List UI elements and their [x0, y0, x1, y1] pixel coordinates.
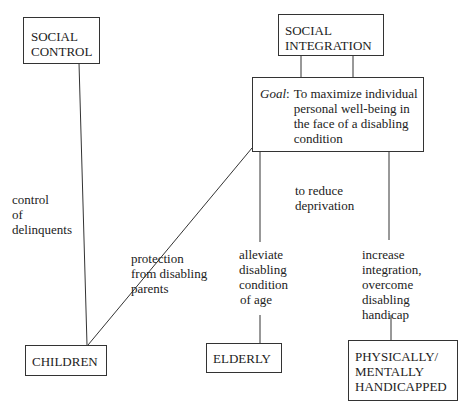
node-line: HANDICAPPED	[355, 379, 457, 394]
label-line: protection	[131, 251, 207, 266]
social-control-node: SOCIAL CONTROL	[23, 17, 100, 64]
label-line: disabling	[362, 292, 422, 307]
social-integration-node: SOCIAL INTEGRATION	[278, 14, 384, 56]
goal-text: To maximize individual personal well-bei…	[294, 86, 418, 146]
label-line: increase	[362, 247, 422, 262]
label-line: to reduce	[295, 183, 354, 198]
goal-line: personal well-being in	[294, 101, 418, 116]
label-line: overcome	[362, 277, 422, 292]
increase-integration-label: increase integration, overcome disabling…	[362, 247, 422, 322]
control-delinquents-label: control of delinquents	[12, 192, 72, 237]
protection-label: protection from disabling parents	[131, 251, 207, 296]
goal-node: Goal: To maximize individual personal we…	[252, 77, 424, 152]
label-line: disabling	[239, 262, 288, 277]
goal-line: To maximize individual	[294, 86, 418, 101]
children-node: CHILDREN	[25, 345, 107, 376]
node-line: PHYSICALLY/	[355, 349, 457, 364]
node-line: SOCIAL	[31, 29, 99, 44]
edge-social-control-children	[79, 63, 87, 345]
label-line: alleviate	[239, 247, 288, 262]
alleviate-label: alleviate disabling condition of age	[239, 247, 288, 307]
label-line: delinquents	[12, 222, 72, 237]
goal-line: the face of a disabling	[294, 116, 418, 131]
label-line: parents	[131, 281, 207, 296]
label-line: integration,	[362, 262, 422, 277]
goal-separator: :	[286, 86, 290, 146]
goal-line: condition	[294, 131, 418, 146]
goal-key: Goal	[260, 86, 286, 146]
reduce-deprivation-label: to reduce deprivation	[295, 183, 354, 213]
label-line: control	[12, 192, 72, 207]
label-line: deprivation	[295, 198, 354, 213]
label-line: from disabling	[131, 266, 207, 281]
label-line: condition	[239, 277, 288, 292]
label-line: of age	[239, 292, 288, 307]
edge-goal-children	[88, 148, 252, 345]
node-line: SOCIAL	[285, 23, 383, 38]
node-line: ELDERLY	[213, 351, 281, 366]
node-line: MENTALLY	[355, 364, 457, 379]
elderly-node: ELDERLY	[206, 343, 282, 373]
label-line: of	[12, 207, 72, 222]
node-line: CONTROL	[31, 44, 99, 59]
node-line: CHILDREN	[32, 354, 106, 369]
handicapped-node: PHYSICALLY/ MENTALLY HANDICAPPED	[348, 340, 458, 401]
label-line: handicap	[362, 307, 422, 322]
node-line: INTEGRATION	[285, 38, 383, 53]
